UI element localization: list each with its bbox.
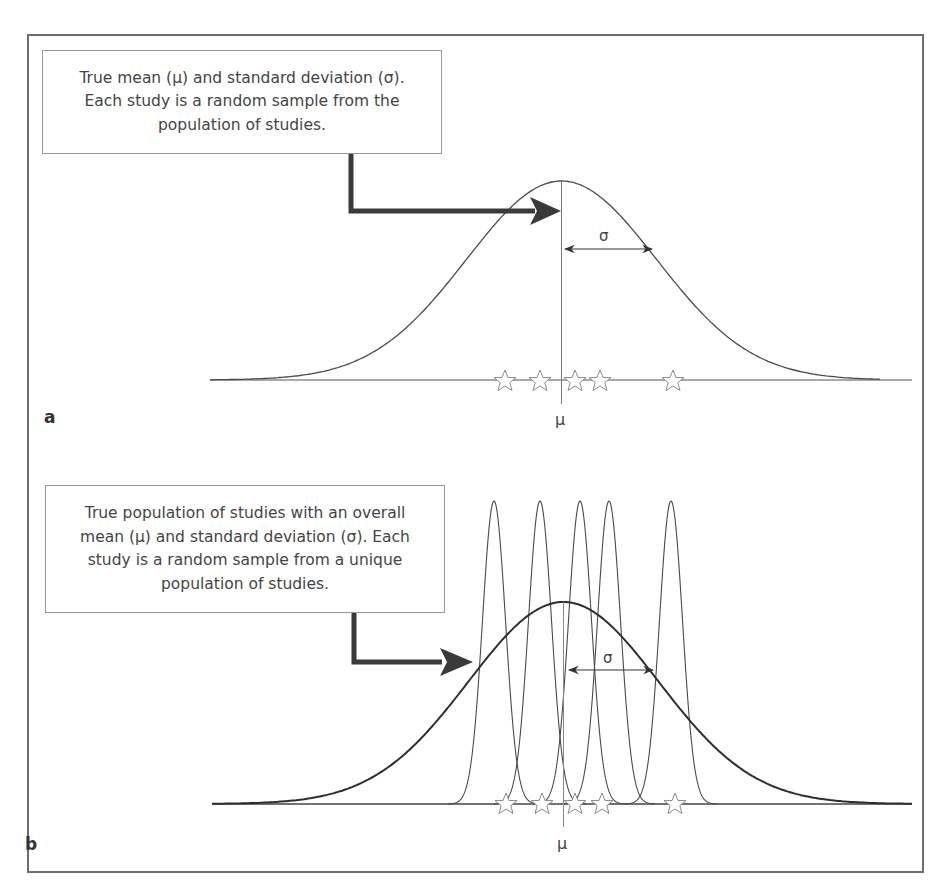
study-population-curve <box>625 501 717 804</box>
callout-box-a: True mean (μ) and standard deviation (σ)… <box>42 50 442 154</box>
star-outline-icon <box>662 370 684 391</box>
star-outline-icon <box>494 370 516 391</box>
callout-b-line-1: True population of studies with an overa… <box>46 502 444 526</box>
mean-label-b: μ <box>557 834 567 853</box>
callout-b-line-3: study is a random sample from a unique <box>46 549 444 573</box>
study-population-curves-b <box>448 501 717 804</box>
sigma-label-a: σ <box>599 227 609 245</box>
panel-label-b: b <box>25 834 37 854</box>
callout-arrow-a <box>351 154 535 211</box>
star-outline-icon <box>531 793 553 814</box>
callout-b-line-4: population of studies. <box>46 573 444 597</box>
star-outline-icon <box>664 793 686 814</box>
callout-arrow-b <box>354 613 442 662</box>
mean-label-a: μ <box>555 410 565 429</box>
callout-a-line-3: population of studies. <box>43 114 441 138</box>
star-outline-icon <box>529 370 551 391</box>
panel-a <box>210 154 912 404</box>
callout-box-b: True population of studies with an overa… <box>45 485 445 613</box>
star-outline-icon <box>564 370 586 391</box>
sigma-label-b: σ <box>603 649 613 667</box>
star-outline-icon <box>591 793 613 814</box>
star-outline-icon <box>564 793 586 814</box>
callout-a-line-1: True mean (μ) and standard deviation (σ)… <box>43 67 441 91</box>
callout-b-line-2: mean (μ) and standard deviation (σ). Eac… <box>46 526 444 550</box>
arrowhead-b <box>440 648 473 676</box>
panel-label-a: a <box>44 407 55 427</box>
population-curve-b <box>212 602 912 804</box>
callout-a-line-2: Each study is a random sample from the <box>43 90 441 114</box>
star-outline-icon <box>589 370 611 391</box>
star-outline-icon <box>495 793 517 814</box>
